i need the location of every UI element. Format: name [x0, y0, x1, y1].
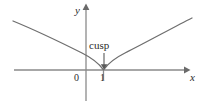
y-axis-arrowhead — [83, 4, 90, 11]
x-axis-label: x — [190, 72, 195, 83]
graph-canvas — [0, 0, 209, 112]
curve-right-branch — [104, 18, 192, 70]
y-axis-label: y — [75, 5, 80, 16]
cusp-graph-figure: y x 0 1 cusp — [0, 0, 209, 112]
x-tick-label-one: 1 — [100, 73, 105, 83]
origin-tick-label: 0 — [74, 73, 79, 83]
cusp-annotation-label: cusp — [89, 40, 109, 51]
